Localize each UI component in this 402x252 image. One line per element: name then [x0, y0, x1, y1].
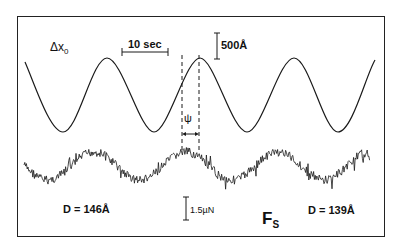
displacement-scale-bar: [214, 33, 220, 59]
left-distance-label: D = 146Å: [63, 204, 110, 215]
force-scale-label: 1.5µN: [190, 206, 214, 215]
phase-markers: [182, 55, 199, 150]
force-scale-bar: [183, 197, 189, 220]
right-distance-label: D = 139Å: [308, 205, 355, 216]
phase-label: ψ: [184, 113, 192, 124]
displacement-trace-label: Δx0: [50, 41, 68, 56]
displacement-trace: [25, 58, 375, 132]
force-trace-label: FS: [262, 210, 279, 230]
displacement-scale-label: 500Å: [221, 40, 247, 51]
force-trace: [24, 148, 370, 190]
time-scale-label: 10 sec: [128, 39, 162, 50]
